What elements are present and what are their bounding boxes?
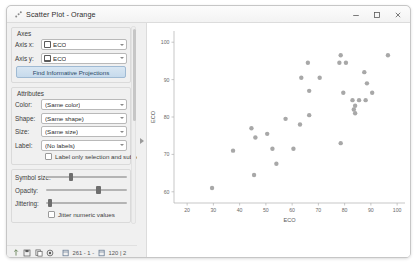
chevron-down-icon [120,104,124,106]
data-point[interactable] [270,147,274,151]
slider-handle[interactable] [48,199,53,207]
scatter-plot-svg[interactable]: 203040506070809010060708090100ECOECO [147,23,411,258]
color-combo[interactable]: (Same color) [41,99,127,110]
label-only-selection-checkbox[interactable]: Label only selection and subset [45,153,127,160]
data-point[interactable] [306,61,310,65]
label-value: (No labels) [45,142,75,149]
axis-y-combo[interactable]: ECO [41,53,127,64]
x-axis-title: ECO [283,217,296,223]
data-point[interactable] [253,135,257,139]
slider-handle[interactable] [96,186,101,194]
slider-handle[interactable] [69,173,74,181]
data-point[interactable] [298,122,302,126]
save-icon[interactable] [23,248,32,257]
maximize-icon[interactable] [366,7,387,22]
splitter-grip-icon [140,138,144,144]
data-point[interactable] [370,91,374,95]
data-point[interactable] [353,111,357,115]
data-point[interactable] [274,162,278,166]
scrollbar-thumb[interactable] [133,29,137,121]
attributes-group: Attributes Color: (Same color) Shape: ( [11,87,131,165]
output-data-icon [97,248,106,257]
size-value: (Same size) [45,128,78,135]
data-point[interactable] [353,104,357,108]
find-informative-projections-button[interactable]: Find Informative Projections [16,66,126,78]
control-panel-scrollbar[interactable] [131,26,136,224]
opacity-slider[interactable] [46,185,127,195]
data-point[interactable] [344,61,348,65]
data-point[interactable] [352,107,356,111]
data-point[interactable] [365,81,369,85]
label-only-selection-label: Label only selection and subset [55,153,137,160]
label-combo[interactable]: (No labels) [41,140,127,151]
data-point[interactable] [337,61,341,65]
data-point[interactable] [307,113,311,117]
data-point[interactable] [362,70,366,74]
data-point[interactable] [291,147,295,151]
attributes-group-title: Attributes [17,90,127,97]
data-point[interactable] [338,53,342,57]
color-label: Color: [15,101,41,108]
data-point[interactable] [210,186,214,190]
opacity-label: Opacity: [15,187,46,194]
axis-x-row: Axis x: ECO [15,39,127,50]
x-tick-label: 80 [342,207,348,213]
data-point[interactable] [357,98,361,102]
label-row: Label: (No labels) [15,140,127,151]
report-icon[interactable] [46,248,55,257]
x-tick-label: 100 [393,207,402,213]
data-point[interactable] [338,141,342,145]
chevron-down-icon [120,131,124,133]
shape-value: (Same shape) [45,115,84,122]
x-tick-label: 90 [368,207,374,213]
data-point[interactable] [363,98,367,102]
data-point[interactable] [341,91,345,95]
data-point[interactable] [299,76,303,80]
variable-icon [44,55,51,62]
axis-x-combo[interactable]: ECO [41,39,127,50]
axes-group: Axes Axis x: ECO Axis y: [11,27,131,83]
status-bar: 261 - 1 - 120 | 2 [7,245,137,258]
size-combo[interactable]: (Same size) [41,126,127,137]
shape-label: Shape: [15,115,41,122]
minimize-icon[interactable] [345,7,366,22]
close-icon[interactable] [387,7,408,22]
scatter-plot-window: Scatter Plot - Orange [6,5,411,258]
scatter-plot-area[interactable]: 203040506070809010060708090100ECOECO [146,23,411,258]
symbol-size-label: Symbol size: [15,174,46,181]
data-point[interactable] [307,89,311,93]
shape-row: Shape: (Same shape) [15,113,127,124]
checkbox-box [48,211,55,218]
data-point[interactable] [231,148,235,152]
info-icon[interactable] [11,248,20,257]
data-point[interactable] [252,173,256,177]
output-data-count: 120 | 2 [109,250,127,256]
symbol-size-slider[interactable] [46,172,127,182]
x-tick-label: 30 [210,207,216,213]
jitter-numeric-values-label: Jitter numeric values [58,211,115,218]
symbol-size-row: Symbol size: [15,172,127,182]
data-point[interactable] [350,98,354,102]
label-label: Label: [15,142,41,149]
data-point[interactable] [283,117,287,121]
window-titlebar[interactable]: Scatter Plot - Orange [7,6,410,23]
jitter-numeric-values-checkbox[interactable]: Jitter numeric values [48,211,127,218]
copy-icon[interactable] [34,248,43,257]
control-panel: Axes Axis x: ECO Axis y: [7,23,137,258]
plot-properties-group: Symbol size: Opacity: [11,169,131,223]
axis-y-label: Axis y: [15,55,41,62]
size-label: Size: [15,128,41,135]
data-point[interactable] [265,132,269,136]
shape-combo[interactable]: (Same shape) [41,113,127,124]
data-point[interactable] [249,126,253,130]
y-tick-label: 90 [164,77,170,83]
x-tick-label: 20 [184,207,190,213]
size-row: Size: (Same size) [15,126,127,137]
data-point[interactable] [386,53,390,57]
jittering-slider[interactable] [46,198,127,208]
window-title: Scatter Plot - Orange [26,10,96,19]
data-point[interactable] [317,76,321,80]
panel-splitter[interactable] [138,23,146,258]
y-tick-label: 60 [164,189,170,195]
chevron-down-icon [120,117,124,119]
